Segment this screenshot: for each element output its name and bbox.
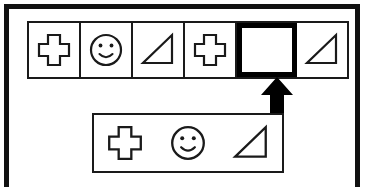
smiley-icon bbox=[87, 31, 125, 69]
up-arrow-icon bbox=[258, 77, 296, 115]
answer-options-box bbox=[92, 113, 284, 173]
option-item-3[interactable] bbox=[225, 120, 277, 166]
triangle-icon bbox=[302, 31, 342, 69]
smiley-icon bbox=[168, 123, 208, 163]
sequence-cell-2[interactable] bbox=[81, 23, 133, 77]
sequence-cell-6[interactable] bbox=[297, 23, 347, 77]
sequence-cell-4[interactable] bbox=[185, 23, 237, 77]
cross-icon bbox=[35, 31, 73, 69]
option-item-2[interactable] bbox=[162, 120, 214, 166]
sequence-cell-1[interactable] bbox=[29, 23, 81, 77]
pattern-puzzle-figure bbox=[0, 0, 369, 187]
sequence-cell-5-empty-slot[interactable] bbox=[237, 23, 297, 77]
cross-icon bbox=[191, 31, 229, 69]
triangle-icon bbox=[229, 123, 273, 163]
sequence-cell-3[interactable] bbox=[133, 23, 185, 77]
triangle-icon bbox=[138, 31, 178, 69]
cross-icon bbox=[105, 123, 145, 163]
pattern-strip bbox=[27, 21, 349, 79]
option-item-1[interactable] bbox=[99, 120, 151, 166]
